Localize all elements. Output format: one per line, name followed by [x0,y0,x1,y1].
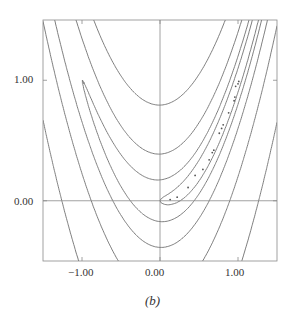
iterate-point [211,152,213,154]
x-tick-label-neg1: −1.00 [68,266,93,278]
y-tick-label-1: 1.00 [14,73,33,85]
iterate-point [169,199,171,201]
iterate-point [235,85,237,87]
iterate-point [208,159,210,161]
y-tick-label-0: 0.00 [14,195,33,207]
iterate-point [187,187,189,189]
iterate-point [234,96,236,98]
x-tick-label-1: 1.00 [225,266,244,278]
iterate-point [233,100,235,102]
iterate-point [176,196,178,198]
iterate-point [228,112,230,114]
iterate-point [213,149,215,151]
x-tick-label-0: 0.00 [145,266,164,278]
iterate-point [202,169,204,171]
iterate-point [218,132,220,134]
iterate-point [221,128,223,130]
iterate-point [238,81,240,83]
figure-caption: (b) [145,293,160,309]
iterate-point [222,124,224,126]
iterate-point [194,175,196,177]
iterate-point [237,83,239,85]
contour-level-16 [55,20,268,247]
